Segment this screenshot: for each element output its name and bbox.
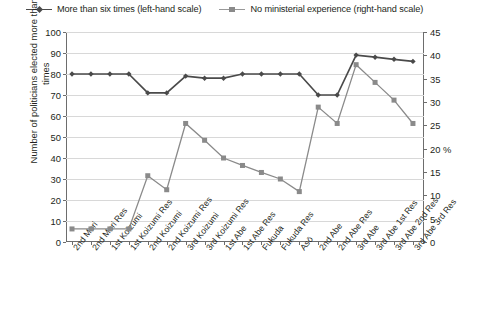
data-point-marker xyxy=(221,76,226,81)
y-axis-left-tick xyxy=(63,242,67,243)
y-axis-left-tick-label: 80 xyxy=(51,69,61,80)
y-axis-right-tick-label: 20 % xyxy=(430,143,451,154)
data-point-marker xyxy=(240,71,245,76)
data-point-marker xyxy=(278,177,283,182)
data-point-marker xyxy=(259,170,264,175)
legend-label: More than six times (left-hand scale) xyxy=(57,4,201,14)
chart-figure: More than six times (left-hand scale) No… xyxy=(0,0,477,329)
y-axis-right-tick-label: 15 xyxy=(430,167,440,178)
data-point-marker xyxy=(107,226,112,231)
y-axis-right-tick-label: 25 xyxy=(430,120,440,131)
series-lines xyxy=(66,32,424,242)
legend-label: No ministerial experience (right-hand sc… xyxy=(250,4,423,14)
y-axis-left-tick-label: 0 xyxy=(56,237,61,248)
y-axis-left-tick-label: 60 xyxy=(51,111,61,122)
square-marker-icon xyxy=(219,5,245,14)
data-point-marker xyxy=(240,163,245,168)
data-point-marker xyxy=(164,187,169,192)
data-point-marker xyxy=(316,105,321,110)
data-point-marker xyxy=(202,76,207,81)
data-point-marker xyxy=(373,80,378,85)
y-axis-left-tick-label: 20 xyxy=(51,195,61,206)
data-point-marker xyxy=(70,226,75,231)
series-line xyxy=(72,65,413,229)
y-axis-left-tick-label: 30 xyxy=(51,174,61,185)
legend-item-more-than-six-times: More than six times (left-hand scale) xyxy=(26,4,201,14)
data-point-marker xyxy=(391,57,396,62)
data-point-marker xyxy=(126,226,131,231)
data-point-marker xyxy=(88,71,93,76)
data-point-marker xyxy=(353,52,358,57)
y-axis-left-tick-label: 100 xyxy=(45,27,61,38)
y-axis-right-tick-label: 30 xyxy=(430,97,440,108)
data-point-marker xyxy=(410,121,415,126)
y-axis-left-tick-label: 90 xyxy=(51,48,61,59)
y-axis-left-tick-label: 10 xyxy=(51,216,61,227)
y-axis-left-tick-label: 40 xyxy=(51,153,61,164)
plot-area: 0102030405060708090100 05101520 %2530354… xyxy=(66,32,424,242)
y-axis-right-tick-label: 35 xyxy=(430,73,440,84)
data-point-marker xyxy=(202,138,207,143)
data-point-marker xyxy=(392,98,397,103)
legend-item-no-ministerial-experience: No ministerial experience (right-hand sc… xyxy=(219,4,423,14)
data-point-marker xyxy=(335,121,340,126)
data-point-marker xyxy=(354,62,359,67)
data-point-marker xyxy=(278,71,283,76)
data-point-marker xyxy=(107,71,112,76)
data-point-marker xyxy=(145,173,150,178)
y-axis-right-tick-label: 40 xyxy=(430,50,440,61)
data-point-marker xyxy=(69,71,74,76)
data-point-marker xyxy=(372,55,377,60)
data-point-marker xyxy=(88,226,93,231)
data-point-marker xyxy=(335,92,340,97)
chart-legend: More than six times (left-hand scale) No… xyxy=(26,4,423,14)
data-point-marker xyxy=(297,189,302,194)
y-axis-right-tick-label: 45 xyxy=(430,27,440,38)
y-axis-left-tick-label: 50 xyxy=(51,132,61,143)
data-point-marker xyxy=(183,121,188,126)
y-axis-left-tick-label: 70 xyxy=(51,90,61,101)
data-point-marker xyxy=(221,156,226,161)
data-point-marker xyxy=(410,59,415,64)
data-point-marker xyxy=(259,71,264,76)
